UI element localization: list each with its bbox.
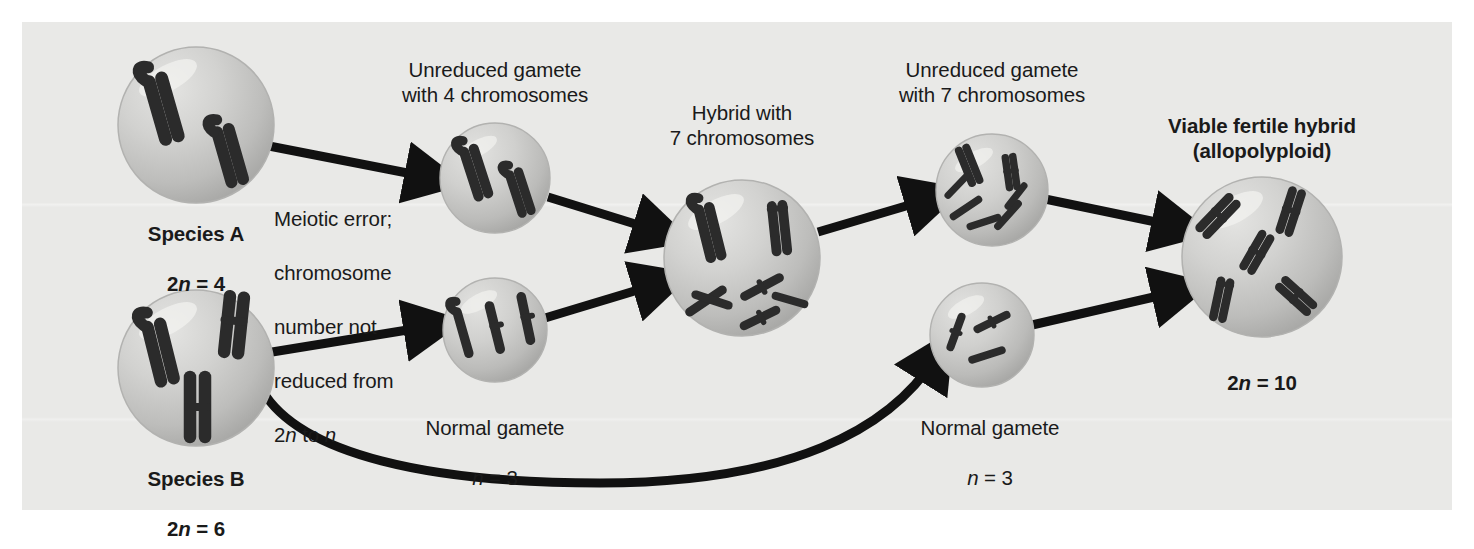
species-b-label: Species B 2n = 6	[116, 441, 276, 541]
species-a-name: Species A	[148, 222, 244, 245]
unreduced-gamete-7-label: Unreduced gamete with 7 chromosomes	[877, 57, 1107, 107]
species-b-name: Species B	[147, 467, 244, 490]
normal-gamete-right-label: Normal gamete n = 3	[880, 390, 1100, 490]
species-a-count: 2n = 4	[167, 272, 225, 295]
normal-gamete-left-count: n = 3	[472, 466, 518, 489]
allopolyploid-count-label: 2n = 10	[1182, 345, 1342, 395]
species-b-count: 2n = 6	[167, 517, 225, 540]
species-a-label: Species A 2n = 4	[116, 196, 276, 296]
unreduced-gamete-4-label: Unreduced gamete with 4 chromosomes	[380, 57, 610, 107]
viable-fertile-hybrid-label: Viable fertile hybrid (allopolyploid)	[1147, 113, 1377, 163]
meiotic-error-ploidy: 2n to n	[274, 423, 336, 446]
hybrid-7-label: Hybrid with 7 chromosomes	[642, 100, 842, 150]
normal-gamete-left-label: Normal gamete n = 3	[385, 390, 605, 490]
allopolyploid-speciation-figure: Species A 2n = 4 Species B 2n = 6 Meioti…	[0, 0, 1474, 549]
normal-gamete-right-count: n = 3	[967, 466, 1013, 489]
